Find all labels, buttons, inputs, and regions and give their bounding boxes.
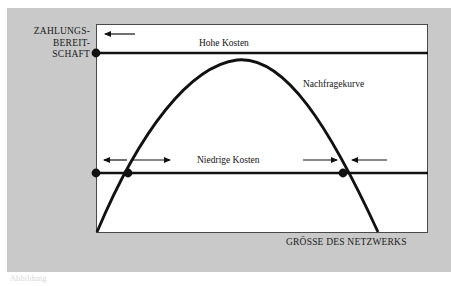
demand-curve-label: Nachfragekurve [303,79,364,90]
low-cost-right-intersection-dot [339,169,348,178]
high-cost-label: Hohe Kosten [199,38,249,49]
y-axis-label-line-2: BEREIT- [8,38,90,50]
figure-screenshot: ZAHLUNGS- BEREIT- SCHAFT GRÖSSE DES NETZ… [0,0,451,286]
high-cost-axis-dot [92,49,101,58]
y-axis-label-line-3: SCHAFT [8,49,90,61]
low-cost-axis-dot [92,169,101,178]
caption-sliver: Abbildung [10,274,190,284]
y-axis-label-line-1: ZAHLUNGS- [8,26,90,38]
low-cost-left-intersection-dot [124,169,133,178]
x-axis-label: GRÖSSE DES NETZWERKS [286,236,407,248]
y-axis-label: ZAHLUNGS- BEREIT- SCHAFT [8,26,90,61]
low-cost-label: Niedrige Kosten [197,155,260,166]
